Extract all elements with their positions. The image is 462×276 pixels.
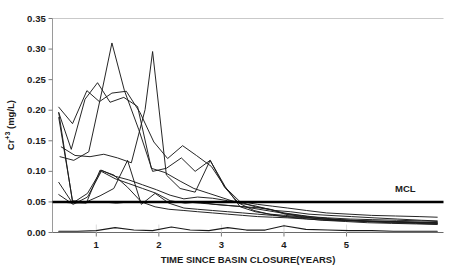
x-tick-label: 1 (84, 239, 108, 250)
y-tick-label: 0.15 (8, 135, 46, 146)
mcl-label: MCL (395, 183, 416, 194)
x-tick-label: 5 (335, 239, 359, 250)
plot-frame (53, 19, 444, 233)
y-tick-label: 0.00 (8, 227, 46, 238)
series-line (59, 171, 437, 221)
y-tick-label: 0.30 (8, 43, 46, 54)
chart-canvas (0, 0, 462, 276)
x-tick-label: 4 (272, 239, 296, 250)
y-tick-label: 0.25 (8, 74, 46, 85)
y-tick-label: 0.35 (8, 13, 46, 24)
y-tick-label: 0.10 (8, 165, 46, 176)
y-tick-label: 0.20 (8, 104, 46, 115)
series-line (59, 226, 437, 232)
x-tick-label: 2 (147, 239, 171, 250)
x-tick-label: 3 (209, 239, 233, 250)
series-line (60, 43, 437, 225)
y-tick-label: 0.05 (8, 196, 46, 207)
axis-ticks (49, 19, 347, 237)
series-line (61, 52, 437, 223)
y-axis-label: Cr+3 (mg/L) (4, 93, 16, 157)
x-axis-label: TIME SINCE BASIN CLOSURE(YEARS) (53, 254, 444, 265)
chart-figure: Cr+3 (mg/L) TIME SINCE BASIN CLOSURE(YEA… (0, 0, 462, 276)
